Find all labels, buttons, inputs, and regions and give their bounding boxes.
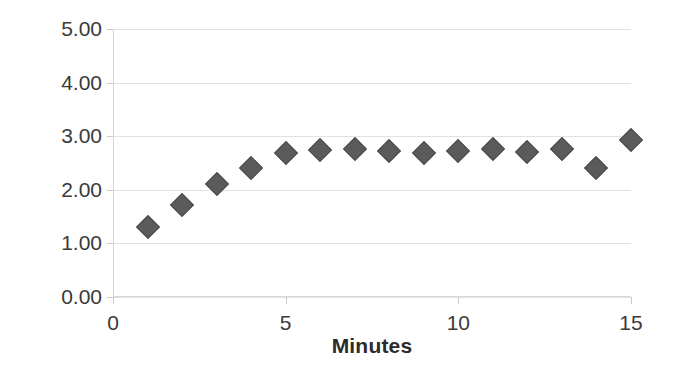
rms-vs-minutes-chart: RMS (mm) 0.001.002.003.004.005.00 051015… bbox=[0, 0, 675, 376]
y-tick-mark bbox=[107, 243, 113, 244]
x-tick-label: 5 bbox=[280, 311, 292, 335]
gridline-y bbox=[113, 243, 631, 244]
data-point-marker bbox=[515, 140, 539, 164]
y-tick-mark bbox=[107, 136, 113, 137]
data-point-marker bbox=[170, 193, 194, 217]
data-point-marker bbox=[412, 141, 436, 165]
y-tick-label: 4.00 bbox=[61, 71, 102, 95]
y-axis-line bbox=[113, 29, 114, 297]
x-tick-label: 10 bbox=[447, 311, 470, 335]
gridline-y bbox=[113, 136, 631, 137]
x-tick-mark bbox=[286, 297, 287, 304]
data-point-marker bbox=[239, 156, 263, 180]
gridline-y bbox=[113, 190, 631, 191]
x-tick-mark bbox=[631, 297, 632, 304]
data-point-marker bbox=[343, 137, 367, 161]
data-point-marker bbox=[308, 138, 332, 162]
data-point-marker bbox=[481, 136, 505, 160]
plot-area: 0.001.002.003.004.005.00 051015 bbox=[113, 29, 631, 297]
y-tick-mark bbox=[107, 29, 113, 30]
x-axis-title: Minutes bbox=[113, 334, 631, 358]
y-tick-label: 0.00 bbox=[61, 285, 102, 309]
gridline-y bbox=[113, 29, 631, 30]
data-point-marker bbox=[274, 141, 298, 165]
data-point-marker bbox=[619, 128, 643, 152]
y-tick-mark bbox=[107, 190, 113, 191]
y-tick-label: 5.00 bbox=[61, 17, 102, 41]
x-tick-mark bbox=[113, 297, 114, 304]
y-tick-label: 2.00 bbox=[61, 178, 102, 202]
data-point-marker bbox=[377, 139, 401, 163]
data-point-marker bbox=[446, 139, 470, 163]
y-tick-label: 3.00 bbox=[61, 124, 102, 148]
x-tick-label: 15 bbox=[619, 311, 642, 335]
y-tick-label: 1.00 bbox=[61, 231, 102, 255]
y-tick-mark bbox=[107, 83, 113, 84]
x-tick-label: 0 bbox=[107, 311, 119, 335]
gridline-y bbox=[113, 297, 631, 298]
data-point-marker bbox=[550, 137, 574, 161]
gridline-y bbox=[113, 83, 631, 84]
data-point-marker bbox=[584, 156, 608, 180]
data-point-marker bbox=[136, 215, 160, 239]
x-tick-mark bbox=[458, 297, 459, 304]
data-point-marker bbox=[205, 172, 229, 196]
